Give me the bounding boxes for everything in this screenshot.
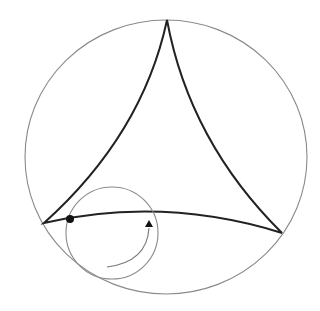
deltoid-diagram: [0, 0, 320, 311]
rotation-arrow-arc: [107, 228, 149, 267]
deltoid-curve: [44, 20, 282, 233]
arrowhead-icon: [145, 220, 153, 227]
tracing-point: [66, 215, 74, 223]
outer-circle: [25, 20, 307, 294]
diagram-canvas: [0, 0, 320, 311]
rolling-circle: [66, 187, 158, 279]
